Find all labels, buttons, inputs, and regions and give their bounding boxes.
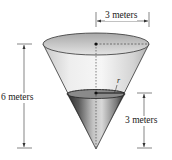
cone-figure xyxy=(0,0,172,160)
water-depth-label: 3 meters xyxy=(125,116,157,126)
water-center-point xyxy=(94,91,97,94)
top-center-point xyxy=(94,42,97,45)
total-height-label: 6 meters xyxy=(1,93,33,103)
top-radius-label: 3 meters xyxy=(105,11,137,21)
water-radius-label: r xyxy=(117,77,120,85)
cone-tank-diagram: 3 meters 6 meters 3 meters r xyxy=(0,0,172,160)
